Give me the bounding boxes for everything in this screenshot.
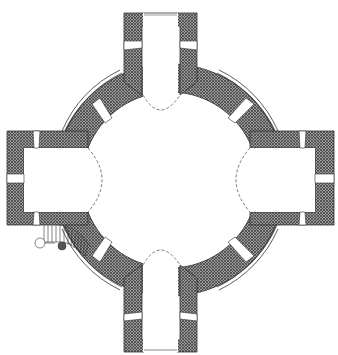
apse-arcs: [88, 95, 250, 265]
diagonal-windows: [92, 98, 254, 262]
floor-plan: [0, 0, 338, 355]
